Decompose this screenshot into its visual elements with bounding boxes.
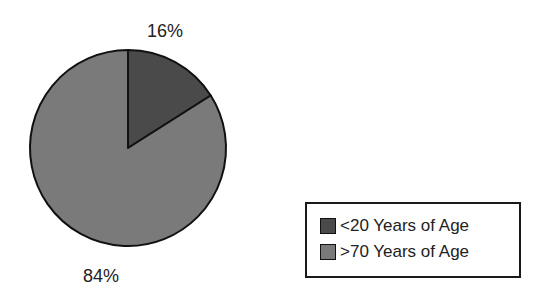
legend-swatch-under-20 [320, 218, 336, 234]
legend-item-under-20: <20 Years of Age [320, 216, 469, 236]
legend-swatch-over-70 [320, 244, 336, 260]
legend-item-over-70: >70 Years of Age [320, 242, 469, 262]
legend-label-over-70: >70 Years of Age [340, 242, 469, 262]
slice-label-over-70: 84% [83, 266, 119, 287]
legend: <20 Years of Age >70 Years of Age [305, 202, 521, 278]
slice-label-under-20: 16% [147, 21, 183, 42]
legend-label-under-20: <20 Years of Age [340, 216, 469, 236]
